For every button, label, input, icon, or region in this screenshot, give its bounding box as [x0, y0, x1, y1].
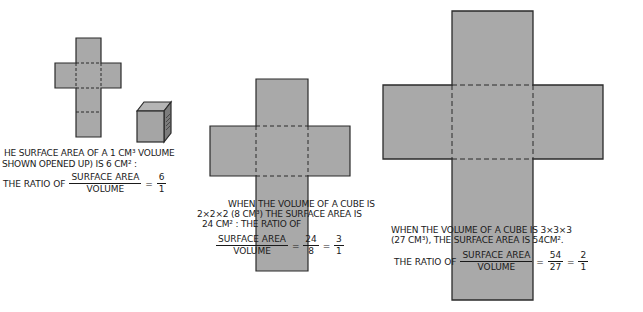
fraction-sa-over-volume: SURFACE AREA VOLUME: [460, 250, 532, 273]
simplified-denominator: 1: [334, 246, 344, 257]
value-denominator: 27: [548, 262, 563, 273]
simplified-numerator: 2: [578, 250, 588, 262]
fraction-numerator: SURFACE AREA: [460, 250, 532, 262]
value-numerator: 6: [157, 172, 167, 184]
ratio-2cm: SURFACE AREA VOLUME = 24 8 = 3 1: [216, 234, 344, 257]
equals-sign: =: [567, 257, 575, 267]
fraction-sa-over-volume: SURFACE AREA VOLUME: [216, 234, 288, 257]
fraction-sa-over-volume: SURFACE AREA VOLUME: [69, 172, 141, 195]
simplified-denominator: 1: [578, 262, 588, 273]
caption-3cm-line2: (27 CM³), THE SURFACE AREA IS 54CM².: [391, 235, 563, 246]
equals-sign: =: [292, 241, 300, 251]
ratio-1cm: THE RATIO OF SURFACE AREA VOLUME = 6 1: [2, 172, 166, 195]
fraction-value: 54 27: [548, 250, 563, 273]
ratio-3cm: THE RATIO OF SURFACE AREA VOLUME = 54 27…: [393, 250, 588, 273]
fraction-denominator: VOLUME: [460, 262, 532, 273]
value-denominator: 8: [303, 246, 318, 257]
fraction-simplified: 3 1: [334, 234, 344, 257]
cube-3d-icon: [137, 102, 171, 142]
value-numerator: 24: [303, 234, 318, 246]
fraction-value: 6 1: [157, 172, 167, 195]
value-numerator: 54: [548, 250, 563, 262]
fraction-numerator: SURFACE AREA: [216, 234, 288, 246]
ratio-prefix: THE RATIO OF: [3, 179, 66, 189]
fraction-value: 24 8: [303, 234, 318, 257]
equals-sign: =: [323, 241, 331, 251]
fraction-denominator: VOLUME: [69, 184, 141, 195]
ratio-prefix: THE RATIO OF: [394, 257, 457, 267]
fraction-simplified: 2 1: [578, 250, 588, 273]
equals-sign: =: [536, 257, 544, 267]
caption-2cm-line3: 24 CM² : THE RATIO OF: [202, 219, 301, 230]
fraction-numerator: SURFACE AREA: [69, 172, 141, 184]
caption-1cm-line1: HE SURFACE AREA OF A 1 CM³ VOLUME: [4, 148, 175, 159]
simplified-numerator: 3: [334, 234, 344, 246]
fraction-denominator: VOLUME: [216, 246, 288, 257]
value-denominator: 1: [157, 184, 167, 195]
caption-1cm-line2: SHOWN OPENED UP) IS 6 CM² :: [2, 159, 137, 170]
equals-sign: =: [145, 179, 153, 189]
